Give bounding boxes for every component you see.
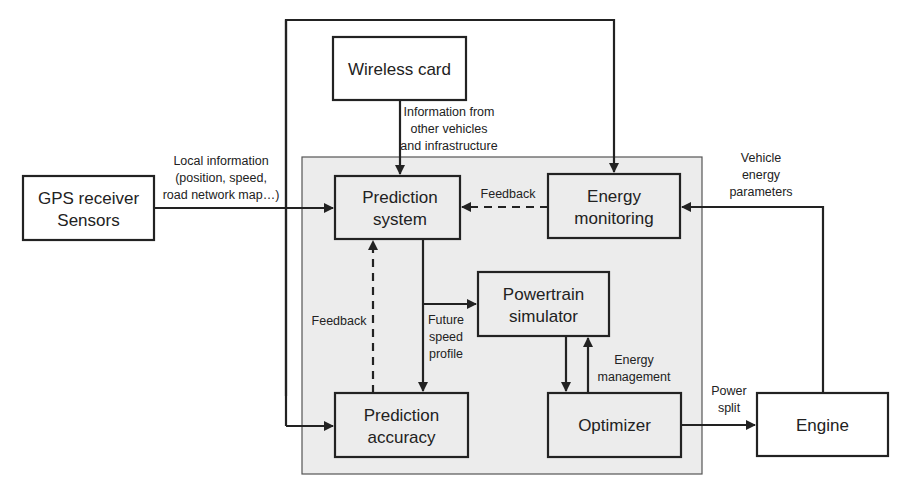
node-engine: Engine [757, 393, 888, 456]
node-prediction-accuracy: Prediction accuracy [335, 393, 468, 457]
edge-label-line: Feedback [481, 187, 537, 201]
node-label: Prediction [362, 188, 438, 207]
edge-label-line: (position, speed, [175, 171, 267, 185]
node-label: Energy [587, 187, 641, 206]
node-prediction-system: Prediction system [335, 176, 460, 239]
node-wireless-card: Wireless card [333, 37, 466, 100]
label-vehicle-energy-parameters: Vehicle energy parameters [729, 151, 792, 199]
edge-label-line: energy [742, 168, 781, 182]
node-label: system [373, 210, 427, 229]
node-gps-sensors: GPS receiver Sensors [23, 176, 154, 240]
edge-label-line: Local information [173, 154, 268, 168]
edge-label-line: other vehicles [410, 122, 487, 136]
label-feedback-energy: Feedback [481, 187, 537, 201]
node-label: GPS receiver [38, 189, 139, 208]
node-optimizer: Optimizer [548, 393, 681, 457]
edge-label-line: Information from [403, 105, 494, 119]
edge-label-line: profile [429, 347, 463, 361]
node-label: Optimizer [578, 416, 651, 435]
node-label: Engine [796, 416, 849, 435]
edge-label-line: road network map…) [163, 188, 280, 202]
edge-label-line: Future [428, 313, 464, 327]
edge-label-line: speed [429, 330, 463, 344]
label-local-information: Local information (position, speed, road… [163, 154, 280, 202]
diagram-canvas: Wireless card GPS receiver Sensors Predi… [0, 0, 913, 491]
node-label: Wireless card [348, 60, 451, 79]
edge-label-line: management [598, 370, 671, 384]
edge-label-line: Power [711, 384, 746, 398]
node-label: accuracy [367, 428, 436, 447]
node-label: Powertrain [503, 285, 584, 304]
edge-label-line: Feedback [312, 314, 368, 328]
edge-label-line: parameters [729, 185, 792, 199]
label-feedback-accuracy: Feedback [312, 314, 368, 328]
label-info-other-vehicles: Information from other vehicles and infr… [400, 105, 497, 153]
edge-label-line: and infrastructure [400, 139, 497, 153]
node-label: simulator [509, 307, 578, 326]
arrow-engine-to-energy [682, 207, 823, 393]
label-power-split: Power split [711, 384, 746, 415]
node-energy-monitoring: Energy monitoring [548, 174, 680, 238]
edge-label-line: Vehicle [741, 151, 781, 165]
node-powertrain-simulator: Powertrain simulator [478, 272, 609, 336]
node-label: Prediction [364, 406, 440, 425]
edge-label-line: split [718, 401, 741, 415]
node-label: Sensors [57, 211, 119, 230]
edge-label-line: Energy [614, 353, 654, 367]
label-future-speed-profile: Future speed profile [428, 313, 464, 361]
node-label: monitoring [574, 209, 653, 228]
